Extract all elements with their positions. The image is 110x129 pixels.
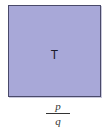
square-shape: T: [8, 5, 101, 97]
fraction-numerator: p: [46, 101, 70, 112]
fraction-caption: p q: [46, 101, 70, 127]
fraction-denominator: q: [46, 116, 70, 127]
fraction-bar: [46, 113, 70, 114]
square-label: T: [9, 48, 100, 62]
